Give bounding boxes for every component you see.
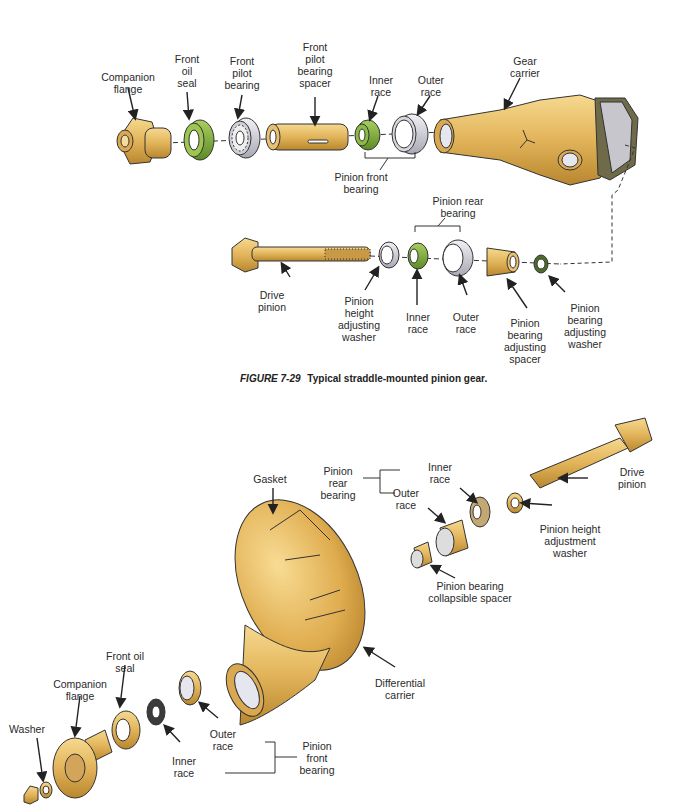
label-washer: Washer [5,723,49,735]
label-companion-flange-bottom: Companion flange [50,678,110,702]
label-gear-carrier: Gear carrier [505,55,545,79]
label-front-pilot-bearing-spacer: Front pilot bearing spacer [290,41,340,89]
gear-carrier-part [434,95,638,185]
label-inner-race: Inner race [364,74,398,98]
label-front-pilot-bearing: Front pilot bearing [220,55,264,91]
figure-number: FIGURE 7-29 [240,373,301,384]
label-drive-pinion: Drive pinion [252,289,292,313]
label-pinion-bearing-collapsible-spacer: Pinion bearing collapsible spacer [420,580,520,604]
label-outer-race: Outer race [413,74,449,98]
companion-flange-part [117,118,171,164]
label-front-outer-race-bottom: Outer race [205,728,241,752]
label-pinion-height-adjustment-washer: Pinion height adjustment washer [530,523,610,559]
label-pinion-rear-bearing-bottom: Pinion rear bearing [315,465,361,501]
label-front-oil-seal-bottom: Front oil seal [100,650,150,674]
label-outer-race-bottom: Outer race [388,487,424,511]
front-pilot-bearing-part [229,118,260,158]
label-pinion-bearing-adjusting-spacer: Pinion bearing adjusting spacer [500,317,550,365]
differential-carrier-part [209,479,390,725]
drive-pinion-part [232,238,370,272]
front-outer-race-part [392,114,428,154]
label-companion-flange: Companion flange [93,71,163,95]
label-rear-outer-race: Outer race [448,311,484,335]
front-pilot-bearing-spacer-part [266,124,348,150]
nut-part [24,786,38,804]
label-inner-race-bottom: Inner race [422,461,458,485]
label-gasket: Gasket [245,473,295,485]
label-front-inner-race-bottom: Inner race [166,755,202,779]
front-inner-race-part [355,120,380,150]
label-pinion-front-bearing: Pinion front bearing [328,171,394,195]
label-front-oil-seal: Front oil seal [170,53,204,89]
figure-caption-text: Typical straddle-mounted pinion gear. [307,373,487,384]
label-pinion-front-bearing-bottom: Pinion front bearing [295,740,339,776]
label-pinion-height-adjusting-washer: Pinion height adjusting washer [334,295,384,343]
label-pinion-rear-bearing: Pinion rear bearing [425,195,491,219]
label-pinion-bearing-adjusting-washer: Pinion bearing adjusting washer [560,302,610,350]
label-drive-pinion-bottom: Drive pinion [612,466,652,490]
label-rear-inner-race: Inner race [402,311,434,335]
figure-caption: FIGURE 7-29 Typical straddle-mounted pin… [240,373,487,384]
label-differential-carrier: Differential carrier [370,677,430,701]
front-oil-seal-part [184,120,214,160]
